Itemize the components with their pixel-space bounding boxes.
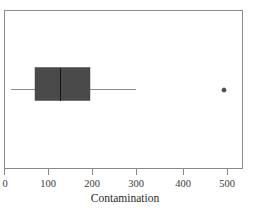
tick-label-100: 100 [40,178,56,189]
tick-label-300: 300 [128,178,144,189]
boxplot-svg: 0 100 200 300 400 500 Contamination [0,0,254,211]
boxplot-outlier-point [222,88,226,92]
x-axis-ticks [5,169,228,175]
tick-label-400: 400 [175,178,191,189]
boxplot-box [35,68,90,101]
tick-label-0: 0 [2,178,7,189]
x-axis-title: Contamination [91,192,160,204]
x-axis-tick-labels: 0 100 200 300 400 500 [2,178,235,189]
tick-label-500: 500 [219,178,235,189]
tick-label-200: 200 [84,178,100,189]
boxplot-figure: 0 100 200 300 400 500 Contamination [0,0,254,211]
